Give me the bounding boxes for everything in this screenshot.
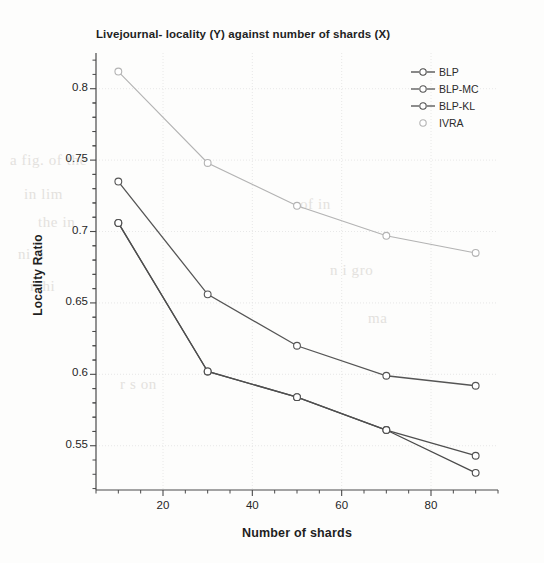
legend-label: IVRA: [439, 117, 464, 129]
legend-marker-icon: [410, 116, 436, 130]
legend-item-blp[interactable]: BLP: [410, 63, 530, 80]
data-point-ivra: [294, 202, 301, 209]
data-point-ivra: [115, 68, 122, 75]
y-tick-label: 0.6: [44, 366, 88, 378]
legend-item-ivra[interactable]: IVRA: [410, 114, 530, 131]
chart-legend: BLPBLP-MCBLP-KLIVRA: [410, 63, 530, 131]
data-point-blp-kl: [472, 452, 479, 459]
x-tick-label: 80: [411, 499, 451, 511]
legend-marker-icon: [410, 99, 436, 113]
data-point-ivra: [204, 160, 211, 167]
legend-label: BLP: [439, 66, 459, 78]
x-tick-label: 60: [322, 499, 362, 511]
y-tick-label: 0.8: [44, 81, 88, 93]
y-tick-label: 0.55: [44, 438, 88, 450]
legend-item-blp-kl[interactable]: BLP-KL: [410, 97, 530, 114]
data-point-blp-mc: [204, 291, 211, 298]
y-tick-label: 0.65: [44, 295, 88, 307]
y-tick-label: 0.75: [44, 152, 88, 164]
data-point-blp-kl: [204, 368, 211, 375]
data-point-blp: [472, 469, 479, 476]
chart-figure: a fig. of the in lim the in ni ti n hi o…: [0, 0, 544, 563]
data-point-blp-mc: [294, 342, 301, 349]
data-point-blp-kl: [383, 427, 390, 434]
x-tick-label: 40: [232, 499, 272, 511]
legend-item-blp-mc[interactable]: BLP-MC: [410, 80, 530, 97]
x-tick-label: 20: [143, 499, 183, 511]
data-point-ivra: [383, 232, 390, 239]
legend-label: BLP-KL: [439, 100, 475, 112]
legend-marker-icon: [410, 82, 436, 96]
legend-label: BLP-MC: [439, 83, 479, 95]
data-point-blp-kl: [115, 220, 122, 227]
data-point-blp-kl: [294, 394, 301, 401]
legend-marker-icon: [410, 65, 436, 79]
data-point-ivra: [472, 250, 479, 257]
data-point-blp-mc: [472, 382, 479, 389]
data-point-blp-mc: [115, 178, 122, 185]
y-tick-label: 0.7: [44, 224, 88, 236]
data-point-blp-mc: [383, 372, 390, 379]
